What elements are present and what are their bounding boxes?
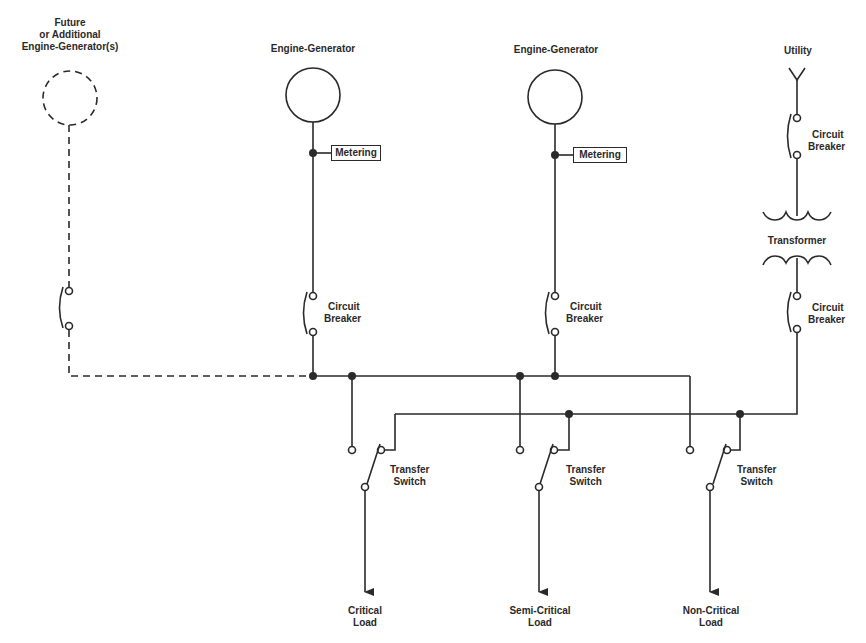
transfer-switch-3 bbox=[707, 414, 741, 592]
utility-symbol bbox=[395, 68, 831, 414]
metering-box-1: Metering bbox=[331, 145, 381, 161]
transfer-switch-label-3: Transfer Switch bbox=[737, 464, 776, 488]
future-label-line3: Engine-Generator(s) bbox=[22, 41, 119, 53]
circuit-breaker-label-utility-bottom: Circuit Breaker bbox=[808, 302, 845, 326]
generator-1-label: Engine-Generator bbox=[271, 43, 355, 55]
transfer-switch-label-1: Transfer Switch bbox=[390, 464, 429, 488]
transfer-switch-label-2: Transfer Switch bbox=[566, 464, 605, 488]
circuit-breaker-label-utility-top: Circuit Breaker bbox=[808, 129, 845, 153]
generator-2-symbol bbox=[528, 70, 582, 376]
utility-label: Utility bbox=[784, 45, 812, 57]
generator-1-symbol bbox=[286, 68, 340, 376]
circuit-breaker-label-gen1: Circuit Breaker bbox=[324, 301, 361, 325]
circuit-breaker-label-gen2: Circuit Breaker bbox=[566, 301, 603, 325]
metering-box-2: Metering bbox=[573, 147, 627, 163]
one-line-diagram bbox=[0, 0, 866, 643]
future-label-line2: or Additional bbox=[22, 29, 119, 41]
junction-dots bbox=[309, 149, 744, 418]
generator-2-label: Engine-Generator bbox=[514, 44, 598, 56]
future-generator-symbol bbox=[43, 71, 310, 376]
non-critical-load-label: Non-Critical Load bbox=[683, 605, 740, 629]
future-label-line1: Future bbox=[22, 17, 119, 29]
critical-load-label: Critical Load bbox=[348, 605, 382, 629]
transfer-switch-1 bbox=[362, 414, 396, 592]
transfer-switch-2 bbox=[536, 414, 570, 592]
future-generator-label: Future or Additional Engine-Generator(s) bbox=[22, 17, 119, 53]
semi-critical-load-label: Semi-Critical Load bbox=[509, 605, 570, 629]
transformer-label: Transformer bbox=[768, 235, 826, 247]
